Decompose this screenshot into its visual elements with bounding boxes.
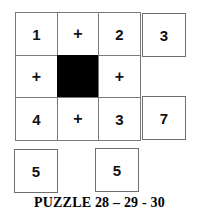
grid-cell-r1c3[interactable]: 2	[98, 12, 141, 56]
row3-result-value: 7	[160, 111, 168, 126]
grid-cell-r1c2-value: +	[73, 26, 82, 42]
grid-cell-r3c3[interactable]: 3	[98, 97, 141, 141]
grid-cell-r1c3-value: 2	[115, 27, 123, 42]
grid-cell-r2c1-value: +	[32, 69, 41, 85]
puzzle-figure: 1 + 2 + + 4 + 3 3 7 5 5 PUZZLE 28 – 29 -…	[0, 0, 199, 217]
grid-cell-r2c1[interactable]: +	[15, 55, 58, 98]
grid-cell-r3c1-value: 4	[32, 112, 40, 127]
grid-cell-r2c2-blocked	[57, 55, 99, 98]
row1-result-value: 3	[160, 28, 168, 43]
puzzle-caption: PUZZLE 28 – 29 - 30	[0, 195, 199, 211]
grid-cell-r1c1[interactable]: 1	[15, 12, 58, 56]
grid-cell-r3c2-value: +	[73, 111, 82, 127]
grid-cell-r2c3[interactable]: +	[98, 55, 141, 98]
col1-result-box[interactable]: 5	[14, 149, 58, 193]
grid-cell-r3c2[interactable]: +	[57, 97, 99, 141]
grid-cell-r3c1[interactable]: 4	[15, 97, 58, 141]
row1-result-box[interactable]: 3	[142, 13, 186, 57]
col3-result-box[interactable]: 5	[95, 148, 139, 192]
grid-cell-r1c1-value: 1	[32, 27, 40, 42]
col3-result-value: 5	[113, 163, 121, 178]
grid-cell-r3c3-value: 3	[115, 112, 123, 127]
col1-result-value: 5	[32, 164, 40, 179]
row3-result-box[interactable]: 7	[142, 96, 186, 140]
grid-cell-r1c2[interactable]: +	[57, 12, 99, 56]
grid-cell-r2c3-value: +	[115, 69, 124, 85]
